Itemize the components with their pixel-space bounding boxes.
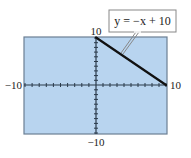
x-min-label: −10 [5,79,23,91]
y-min-label: −10 [87,136,105,148]
y-max-label: 10 [91,25,103,37]
x-max-label: 10 [170,79,182,91]
callout-equation-label: y = −x + 10 [114,14,170,28]
chart-svg: 10 −10 −10 10 y = −x + 10 [0,0,191,158]
graphing-calculator-chart: 10 −10 −10 10 y = −x + 10 [0,0,191,158]
